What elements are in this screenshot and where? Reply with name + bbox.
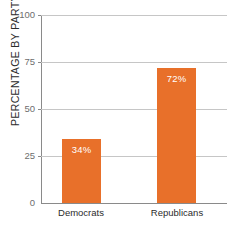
gridline-50 [41,109,227,110]
y-tick-label-100: 100 [5,10,35,19]
x-axis-label-republicans: Republicans [128,207,226,218]
gridline-75 [41,62,227,63]
y-tick-label-75: 75 [5,57,35,66]
y-tick-label-25: 25 [5,151,35,160]
bar-value-republicans: 72% [157,73,196,84]
bar-value-democrats: 34% [62,144,101,155]
y-tick-label-50: 50 [5,104,35,113]
gridline-100 [41,15,227,16]
bar-chart: PERCENTAGE BY PARTY 100 75 50 25 0 34% 7… [0,0,229,225]
bar-republicans[interactable]: 72% [157,68,196,203]
x-axis-label-democrats: Democrats [32,207,130,218]
cropped-title-remnant [0,0,229,4]
plot-area: 34% 72% [41,15,227,203]
y-tick-label-0: 0 [5,198,35,207]
bar-democrats[interactable]: 34% [62,139,101,203]
gridline-baseline-0 [41,203,227,204]
